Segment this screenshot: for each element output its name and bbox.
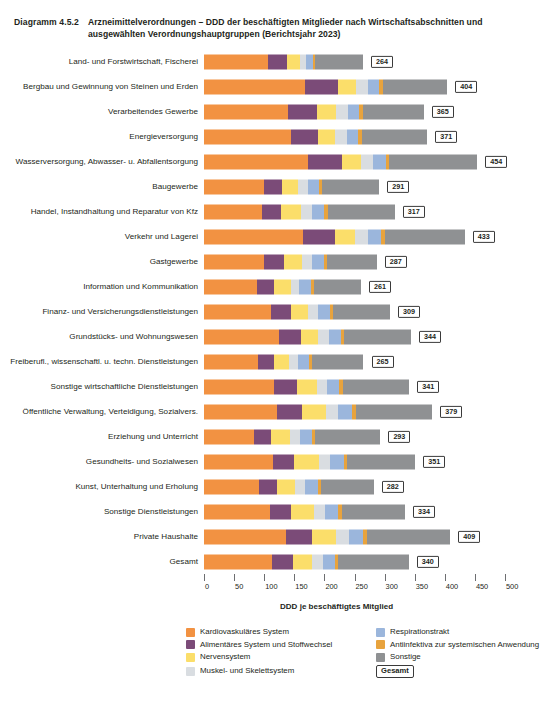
legend-swatch-icon [186,667,195,676]
bar-segment [264,254,284,269]
bar-segment [204,229,303,244]
bar-segment [348,104,359,119]
legend-item[interactable]: Kardiovaskuläres System [186,627,368,636]
stacked-bar[interactable] [204,229,465,244]
stacked-bar[interactable] [204,454,415,469]
total-value-badge: 454 [485,156,507,168]
row-label: Gastgewerbe [0,257,204,266]
bar-area: 454 [204,149,543,174]
legend-item[interactable]: Respirationstrakt [376,627,543,636]
row-label: Verarbeitendes Gewerbe [0,107,204,116]
total-value-badge: 341 [417,381,439,393]
stacked-bar[interactable] [204,254,377,269]
legend-item[interactable]: Alimentäres System und Stoffwechsel [186,640,368,649]
row-label: Information und Kommunikation [0,282,204,291]
bar-segment [368,229,381,244]
total-value-badge: 379 [440,406,462,418]
bar-segment [336,104,348,119]
stacked-bar[interactable] [204,204,395,219]
stacked-bar[interactable] [204,129,427,144]
row-label: Land- und Forstwirtschaft, Fischerei [0,57,204,66]
bar-segment [356,404,432,419]
chart-row: Sonstige Dienstleistungen334 [0,499,543,524]
bar-segment [274,379,296,394]
bar-segment [327,379,339,394]
diagram-number: Diagramm 4.5.2 [14,16,79,27]
bar-segment [338,79,355,94]
legend-item[interactable]: Muskel- und Skelettsystem [186,665,368,678]
stacked-bar[interactable] [204,54,363,69]
stacked-bar[interactable] [204,79,447,94]
bar-segment [290,429,300,444]
bar-segment [204,554,272,569]
row-label: Erziehung und Unterricht [0,432,204,441]
chart-row: Gastgewerbe287 [0,249,543,274]
bar-segment [318,329,328,344]
bar-segment [306,54,313,69]
bar-area: 341 [204,374,543,399]
stacked-bar[interactable] [204,354,363,369]
chart-row: Verkehr und Lagerei433 [0,224,543,249]
stacked-bar[interactable] [204,104,424,119]
legend-item[interactable]: Antiinfektiva zur systemischen Anwendung [376,640,543,649]
bar-segment [282,179,298,194]
bar-area: 291 [204,174,543,199]
stacked-bar[interactable] [204,479,374,494]
bar-segment [281,204,301,219]
bar-area: 265 [204,349,543,374]
legend-label: Antiinfektiva zur systemischen Anwendung [390,640,539,649]
total-value-badge: 365 [432,106,454,118]
bar-segment [344,329,411,344]
legend-item[interactable]: Nervensystem [186,652,368,661]
legend-label: Alimentäres System und Stoffwechsel [200,640,332,649]
bar-segment [271,304,291,319]
legend-label: Sonstige [390,652,421,661]
legend-item[interactable]: Sonstige [376,652,543,661]
bar-segment [312,204,325,219]
bar-area: 334 [204,499,543,524]
row-label: Energieversorgung [0,132,204,141]
stacked-bar[interactable] [204,504,405,519]
axis-tick [355,574,356,581]
bar-segment [254,429,271,444]
axis-tick [294,574,295,581]
chart-row: Öffentliche Verwaltung, Verteidigung, So… [0,399,543,424]
bar-segment [317,379,328,394]
bar-segment [312,254,324,269]
chart-row: Kunst, Unterhaltung und Erholung282 [0,474,543,499]
bar-segment [291,279,299,294]
row-label: Handel, Instandhaltung und Reparatur von… [0,207,204,216]
stacked-bar[interactable] [204,429,380,444]
page-title: Arzneimittelverordnungen – DDD der besch… [88,16,518,40]
stacked-bar[interactable] [204,379,409,394]
axis-tick-label: 100 [265,582,277,591]
stacked-bar[interactable] [204,404,432,419]
bar-segment [335,229,355,244]
bar-area: 309 [204,299,543,324]
stacked-bar[interactable] [204,279,361,294]
bar-area: 317 [204,199,543,224]
chart-row: Gesundheits- und Sozialwesen351 [0,449,543,474]
bar-segment [291,304,308,319]
axis-tick-label: 300 [386,582,398,591]
total-value-badge: 433 [473,231,495,243]
bar-area: 365 [204,99,543,124]
bar-segment [342,154,361,169]
bar-segment [204,79,305,94]
stacked-bar[interactable] [204,154,477,169]
stacked-bar[interactable] [204,329,411,344]
axis-tick-label: 450 [476,582,488,591]
stacked-bar[interactable] [204,554,409,569]
stacked-bar[interactable] [204,179,379,194]
chart-row: Private Haushalte409 [0,524,543,549]
bar-area: 264 [204,49,543,74]
stacked-bar[interactable] [204,304,390,319]
bar-segment [287,54,300,69]
bar-segment [270,504,290,519]
bar-segment [298,354,309,369]
row-label: Private Haushalte [0,532,204,541]
axis-tick [264,574,265,581]
bar-segment [204,429,254,444]
bar-segment [288,104,317,119]
stacked-bar[interactable] [204,529,450,544]
